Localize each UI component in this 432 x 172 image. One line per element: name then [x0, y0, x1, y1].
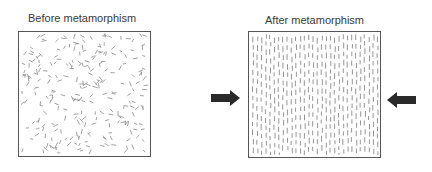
before-panel	[18, 31, 151, 157]
before-title: Before metamorphism	[28, 12, 136, 24]
random-grains-texture	[19, 32, 150, 156]
right-pointing-arrow-icon	[211, 90, 241, 106]
after-title: After metamorphism	[265, 14, 364, 26]
left-pointing-arrow-icon	[387, 92, 417, 108]
after-panel	[248, 31, 381, 158]
aligned-grains-texture	[249, 32, 380, 157]
